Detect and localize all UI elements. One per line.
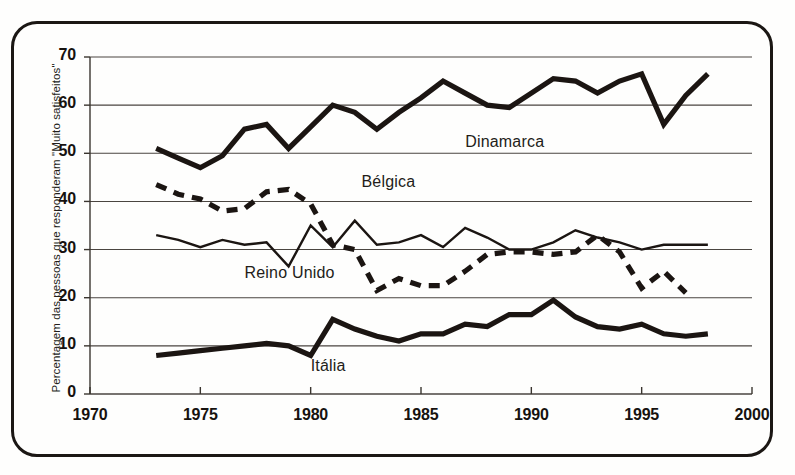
series-line-2 xyxy=(156,221,708,267)
data-series-layer xyxy=(156,74,708,356)
y-tick-label-70: 70 xyxy=(42,46,76,64)
chart-plot-area xyxy=(0,0,795,475)
series-label-reino-unido: Reino Unido xyxy=(244,264,334,282)
y-tick-label-30: 30 xyxy=(42,239,76,257)
y-tick-label-0: 0 xyxy=(42,383,76,401)
y-tick-label-50: 50 xyxy=(42,142,76,160)
x-tick-label-1970: 1970 xyxy=(60,406,120,424)
series-label-dinamarca: Dinamarca xyxy=(465,133,544,151)
gridlines xyxy=(90,57,752,394)
x-tick-label-1985: 1985 xyxy=(391,406,451,424)
y-tick-label-40: 40 xyxy=(42,190,76,208)
x-tick-label-1980: 1980 xyxy=(281,406,341,424)
y-tick-label-60: 60 xyxy=(42,94,76,112)
x-tick-label-1975: 1975 xyxy=(170,406,230,424)
y-tick-marks xyxy=(84,57,90,394)
y-tick-label-20: 20 xyxy=(42,287,76,305)
x-tick-marks xyxy=(90,387,752,394)
series-label-bélgica: Bélgica xyxy=(361,173,415,191)
chart-figure: Percentagem das pessoas que responderam … xyxy=(0,0,795,475)
series-line-3 xyxy=(156,300,708,355)
x-tick-label-1990: 1990 xyxy=(501,406,561,424)
x-tick-label-2000: 2000 xyxy=(722,406,782,424)
series-label-itália: Itália xyxy=(311,357,346,375)
y-tick-label-10: 10 xyxy=(42,335,76,353)
x-tick-label-1995: 1995 xyxy=(612,406,672,424)
